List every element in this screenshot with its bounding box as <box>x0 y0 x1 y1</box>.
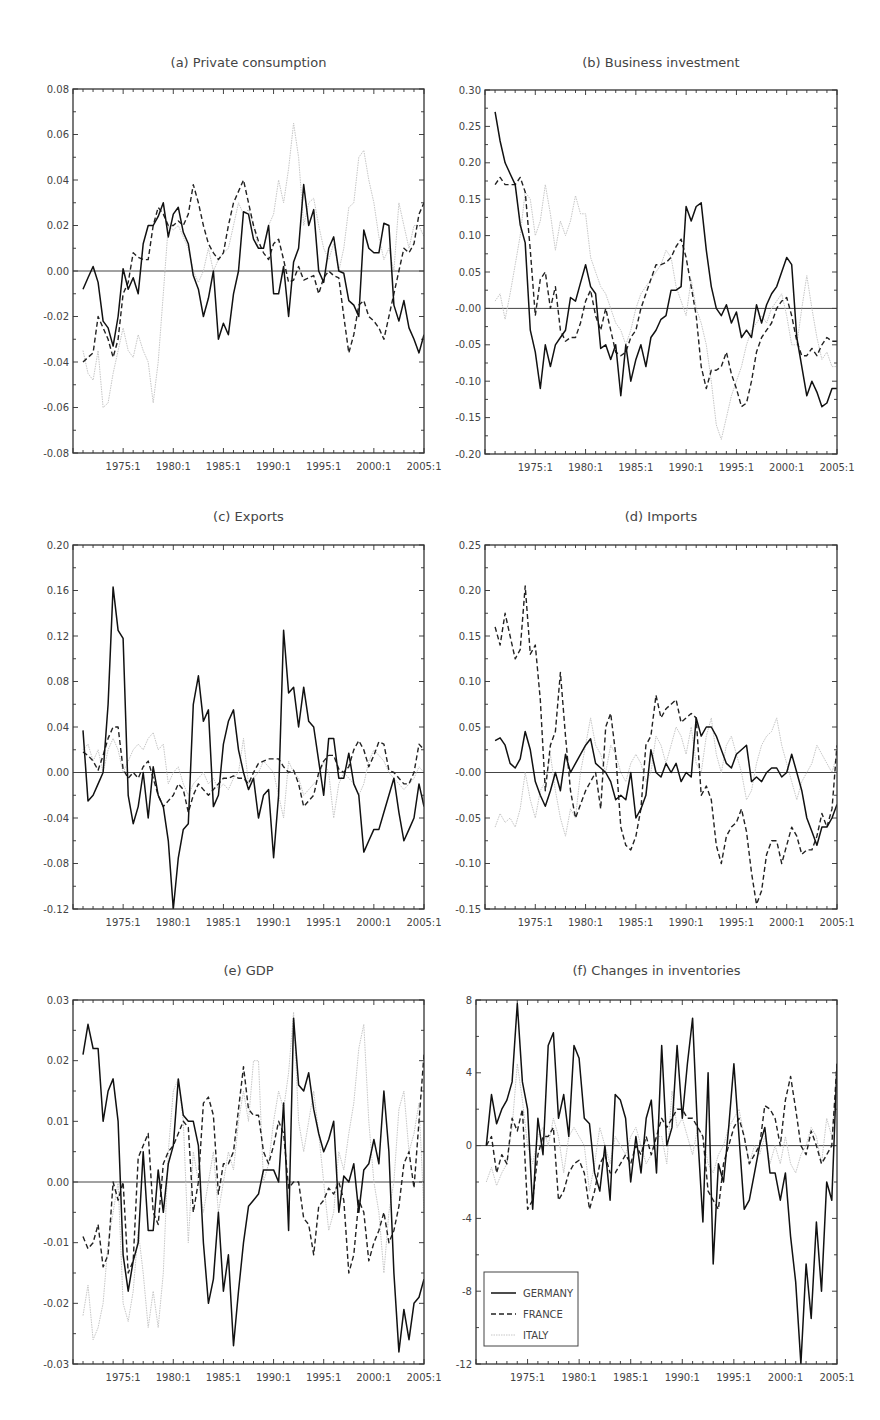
y-tick-label: 0.30 <box>459 85 481 96</box>
x-tick-label: 2000:1 <box>769 917 804 928</box>
y-tick-label: 0 <box>466 1140 472 1151</box>
panel-d: (d) Imports0.250.200.150.100.05-0.00-0.0… <box>455 509 854 928</box>
panel-title: (c) Exports <box>213 509 284 524</box>
series-line-france <box>495 586 837 905</box>
plot-frame <box>485 90 837 454</box>
panel-c: (c) Exports0.200.160.120.080.040.00-0.04… <box>43 509 441 928</box>
series-line-france <box>83 727 424 812</box>
plot-frame <box>485 545 837 909</box>
y-tick-label: 0.00 <box>47 266 69 277</box>
x-tick-label: 1985:1 <box>206 1372 241 1383</box>
y-tick-label: 0.20 <box>459 157 481 168</box>
x-tick-label: 2000:1 <box>356 917 391 928</box>
x-tick-label: 2000:1 <box>356 461 391 472</box>
y-tick-label: 0.05 <box>459 267 481 278</box>
y-tick-label: 0.10 <box>459 676 481 687</box>
y-tick-label: 0.12 <box>47 631 69 642</box>
y-tick-label: -0.00 <box>455 767 481 778</box>
y-tick-label: -4 <box>462 1213 472 1224</box>
y-tick-label: -0.05 <box>455 813 481 824</box>
series-line-germany <box>495 718 837 845</box>
x-tick-label: 1990:1 <box>256 1372 291 1383</box>
y-tick-label: -0.20 <box>455 449 481 460</box>
x-tick-label: 2005:1 <box>406 461 441 472</box>
x-tick-label: 1975:1 <box>106 461 141 472</box>
x-tick-label: 2005:1 <box>819 462 854 473</box>
legend-label-italy: ITALY <box>523 1330 549 1341</box>
x-tick-label: 1990:1 <box>669 462 704 473</box>
y-tick-label: 0.00 <box>47 1177 69 1188</box>
y-tick-label: -0.00 <box>455 303 481 314</box>
y-tick-label: 0.06 <box>47 129 69 140</box>
x-tick-label: 1975:1 <box>106 1372 141 1383</box>
x-tick-label: 1990:1 <box>256 917 291 928</box>
y-tick-label: 0.25 <box>459 540 481 551</box>
x-tick-label: 1980:1 <box>568 917 603 928</box>
y-tick-label: -0.10 <box>455 858 481 869</box>
y-tick-label: 0.00 <box>47 767 69 778</box>
y-tick-label: 0.25 <box>459 121 481 132</box>
y-tick-label: -0.15 <box>455 412 481 423</box>
y-tick-label: 0.08 <box>47 84 69 95</box>
y-tick-label: -0.06 <box>43 402 69 413</box>
y-tick-label: 0.02 <box>47 1055 69 1066</box>
x-tick-label: 1990:1 <box>669 917 704 928</box>
x-tick-label: 1995:1 <box>719 462 754 473</box>
x-tick-label: 1975:1 <box>518 462 553 473</box>
series-line-italy <box>83 123 424 407</box>
y-tick-label: -0.04 <box>43 813 69 824</box>
panel-title: (d) Imports <box>625 509 698 524</box>
x-tick-label: 1995:1 <box>306 917 341 928</box>
x-tick-label: 1985:1 <box>618 462 653 473</box>
y-tick-label: -0.02 <box>43 1298 69 1309</box>
y-tick-label: 0.10 <box>459 230 481 241</box>
y-tick-label: -0.04 <box>43 357 69 368</box>
panel-title: (f) Changes in inventories <box>572 963 740 978</box>
y-tick-label: -0.08 <box>43 448 69 459</box>
x-tick-label: 2000:1 <box>769 462 804 473</box>
y-tick-label: 0.08 <box>47 676 69 687</box>
x-tick-label: 1980:1 <box>156 461 191 472</box>
y-tick-label: 0.04 <box>47 722 69 733</box>
y-tick-label: 0.20 <box>459 585 481 596</box>
series-line-france <box>495 177 837 406</box>
y-tick-label: 0.16 <box>47 585 69 596</box>
x-tick-label: 1995:1 <box>719 917 754 928</box>
x-tick-label: 1985:1 <box>206 917 241 928</box>
series-line-germany <box>83 185 424 353</box>
x-tick-label: 1995:1 <box>306 461 341 472</box>
x-tick-label: 1980:1 <box>568 462 603 473</box>
x-tick-label: 1995:1 <box>716 1372 751 1383</box>
x-tick-label: 1985:1 <box>613 1372 648 1383</box>
panel-title: (b) Business investment <box>582 55 739 70</box>
x-tick-label: 1975:1 <box>510 1372 545 1383</box>
x-tick-label: 2005:1 <box>406 1372 441 1383</box>
y-tick-label: 0.05 <box>459 722 481 733</box>
panel-title: (a) Private consumption <box>171 55 327 70</box>
series-line-italy <box>83 733 424 818</box>
panel-e: (e) GDP0.030.020.010.00-0.01-0.02-0.0319… <box>43 963 441 1383</box>
x-tick-label: 1980:1 <box>562 1372 597 1383</box>
y-tick-label: 0.01 <box>47 1116 69 1127</box>
y-tick-label: -0.01 <box>43 1237 69 1248</box>
panel-title: (e) GDP <box>223 963 273 978</box>
x-tick-label: 2005:1 <box>819 1372 854 1383</box>
series-line-france <box>83 1055 424 1273</box>
x-tick-label: 2000:1 <box>768 1372 803 1383</box>
x-tick-label: 2005:1 <box>406 917 441 928</box>
y-tick-label: 0.15 <box>459 631 481 642</box>
y-tick-label: 0.03 <box>47 995 69 1006</box>
panel-a: (a) Private consumption0.080.060.040.020… <box>43 55 441 472</box>
y-tick-label: -0.12 <box>43 904 69 915</box>
y-tick-label: -0.05 <box>455 339 481 350</box>
x-tick-label: 1980:1 <box>156 1372 191 1383</box>
legend: GERMANYFRANCEITALY <box>484 1272 578 1346</box>
x-tick-label: 1985:1 <box>206 461 241 472</box>
legend-label-germany: GERMANY <box>523 1288 574 1299</box>
series-line-italy <box>83 1012 424 1340</box>
panel-b: (b) Business investment0.300.250.200.150… <box>455 55 854 473</box>
y-tick-label: 0.04 <box>47 175 69 186</box>
y-tick-label: 0.02 <box>47 220 69 231</box>
y-tick-label: 0.20 <box>47 540 69 551</box>
series-line-germany <box>83 1018 424 1352</box>
